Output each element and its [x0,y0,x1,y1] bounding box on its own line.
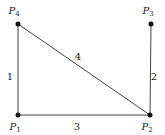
edge-label: 3 [74,121,80,132]
node-label-subscript: 3 [149,10,153,18]
node-label-subscript: 1 [16,126,20,134]
node-p1 [16,113,21,118]
node-label: P2 [140,121,152,134]
edge-label: 4 [75,51,81,62]
node-label: P1 [8,121,20,134]
node-label-subscript: 4 [15,10,20,18]
node-p2 [148,113,153,118]
node-label: P4 [7,5,20,18]
edge-label: 1 [7,71,13,82]
edge-4 [18,24,150,115]
node-p4 [16,22,21,27]
graph-diagram: 1234 P1P2P3P4 [0,0,165,135]
graph-canvas: 1234 P1P2P3P4 [0,0,165,135]
node-label-subscript: 2 [148,126,152,134]
edge-2 [150,24,151,115]
node-label: P3 [141,5,153,18]
edge-label: 2 [151,71,157,82]
node-p3 [149,22,154,27]
